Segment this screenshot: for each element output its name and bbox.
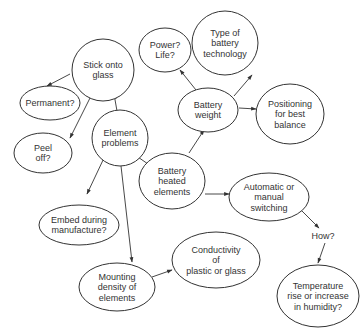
node-switching-label: switching (250, 203, 287, 213)
arrow-weight-to-power (180, 70, 196, 90)
node-type-label: Type of (210, 28, 240, 38)
label-how: How? (311, 231, 334, 241)
node-positioning-label: Positioning (268, 99, 312, 109)
node-mounting-label: elements (99, 293, 136, 303)
node-power-label: Power? (150, 40, 181, 50)
node-heated-label: elements (154, 187, 191, 197)
arrow-element-to-embed (87, 158, 104, 194)
node-mounting-label: density of (98, 282, 137, 292)
node-temperature-label: Temperature (293, 281, 344, 291)
node-mounting-label: Mounting (98, 272, 135, 282)
arrow-stick-to-permanent (47, 74, 70, 86)
node-conductivity-label: of (212, 255, 220, 265)
node-type-label: battery (211, 38, 239, 48)
arrow-element-to-mounting (121, 166, 132, 262)
node-peel-label: off? (36, 153, 51, 163)
node-temperature: Temperaturerise or increasein humidity? (277, 265, 359, 327)
node-power-label: Life? (155, 50, 175, 60)
labels: How? (311, 231, 334, 241)
node-embed-label: Embed during (51, 215, 107, 225)
node-temperature-label: rise or increase (287, 291, 349, 301)
node-heated: Batteryheatedelements (139, 153, 205, 209)
node-heated-label: heated (158, 176, 186, 186)
node-positioning: Positioningfor bestbalance (256, 84, 324, 144)
nodes: Stick ontoglassPermanent?Peeloff?Element… (14, 11, 359, 327)
node-positioning-label: for best (275, 109, 306, 119)
node-switching: Automatic ormanualswitching (229, 173, 309, 221)
node-embed: Embed duringmanufacture? (39, 205, 119, 245)
node-permanent-label: Permanent? (25, 98, 74, 108)
node-heated-label: Battery (158, 166, 187, 176)
node-conductivity: Conductivityofplastic or glass (172, 232, 260, 288)
node-weight-label: weight (194, 110, 222, 120)
node-element-label: problems (101, 138, 139, 148)
arrow-heated-to-weight (189, 130, 204, 153)
arrow-weight-to-type (234, 75, 252, 96)
node-stick-label: glass (92, 70, 114, 80)
node-weight: Batteryweight (178, 88, 238, 132)
node-temperature-label: in humidity? (294, 302, 342, 312)
node-peel: Peeloff? (14, 133, 72, 173)
node-mounting: Mountingdensity ofelements (79, 263, 155, 311)
node-permanent: Permanent? (20, 86, 80, 120)
node-peel-label: Peel (34, 143, 52, 153)
node-switching-label: Automatic or (244, 182, 295, 192)
node-stick: Stick ontoglass (72, 39, 134, 101)
node-power: Power?Life? (139, 28, 191, 72)
mind-map-diagram: Stick ontoglassPermanent?Peeloff?Element… (0, 0, 363, 331)
node-element-label: Element (103, 128, 137, 138)
node-type: Type ofbatterytechnology (192, 11, 258, 75)
node-conductivity-label: Conductivity (191, 245, 241, 255)
node-stick-label: Stick onto (83, 60, 123, 70)
node-weight-label: Battery (194, 100, 223, 110)
arrow-weight-to-positioning (239, 108, 256, 109)
node-embed-label: manufacture? (51, 225, 106, 235)
node-type-label: technology (203, 49, 247, 59)
node-conductivity-label: plastic or glass (186, 266, 246, 276)
node-switching-label: manual (254, 192, 284, 202)
node-element: Elementproblems (92, 110, 148, 166)
node-positioning-label: balance (274, 120, 306, 130)
arrow-mounting-to-conductivity (152, 270, 172, 277)
arrow-how-to-temperature (318, 243, 325, 263)
arrow-switching-to-how (301, 210, 319, 228)
